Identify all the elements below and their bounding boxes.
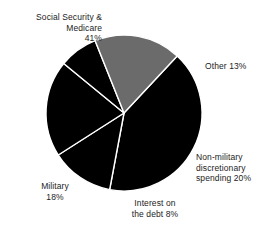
pie-slice-group [46, 35, 202, 191]
pie-label-social-security-medicare: Social Security & Medicare 41% [4, 12, 102, 44]
pie-label-interest-on-the-debt: Interest on the debt 8% [112, 198, 198, 219]
pie-label-other: Other 13% [205, 61, 273, 72]
pie-label-non-military-discretionary-spending: Non-military discretionary spending 20% [196, 152, 274, 184]
pie-chart-figure: Social Security & Medicare 41% Other 13%… [0, 0, 276, 233]
pie-label-military: Military 18% [22, 181, 88, 202]
